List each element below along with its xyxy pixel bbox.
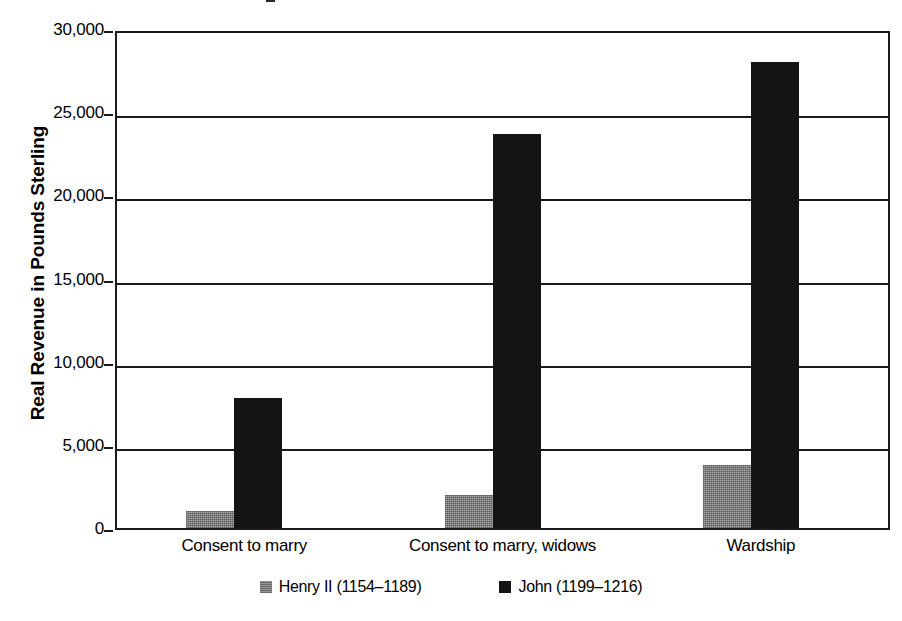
bar <box>445 495 493 528</box>
y-tick-label: 20,000 <box>53 186 104 206</box>
y-tick-label: 25,000 <box>53 103 104 123</box>
legend-item-label: Henry II (1154–1189) <box>279 578 422 596</box>
x-axis-category-labels: Consent to marryConsent to marry, widows… <box>115 536 890 566</box>
x-axis-label: Consent to marry, widows <box>353 536 653 556</box>
y-tick-label: 30,000 <box>53 20 104 40</box>
legend: Henry II (1154–1189)John (1199–1216) <box>0 578 902 596</box>
bar <box>493 134 541 528</box>
y-tick-label: 15,000 <box>53 270 104 290</box>
legend-item-label: John (1199–1216) <box>518 578 642 596</box>
bar <box>751 62 799 528</box>
y-tick-mark <box>104 364 113 366</box>
y-tick-label: 5,000 <box>62 436 104 456</box>
y-axis-tick-labels: 05,00010,00015,00020,00025,00030,000 <box>0 31 104 530</box>
x-axis-label: Consent to marry <box>94 536 394 556</box>
legend-item: Henry II (1154–1189) <box>260 578 422 596</box>
legend-swatch-icon <box>499 581 511 593</box>
y-tick-mark <box>104 530 113 532</box>
y-tick-mark <box>104 114 113 116</box>
y-tick-mark <box>104 197 113 199</box>
y-tick-mark <box>104 447 113 449</box>
legend-item: John (1199–1216) <box>499 578 642 596</box>
y-tick-mark <box>104 31 113 33</box>
y-axis-tick-marks <box>104 31 115 530</box>
cropped-title-fragment <box>266 0 275 2</box>
x-axis-label: Wardship <box>611 536 902 556</box>
bar-chart: Real Revenue in Pounds Sterling 05,00010… <box>0 0 902 621</box>
bar <box>234 398 282 528</box>
plot-area <box>115 31 890 530</box>
bar <box>703 465 751 528</box>
y-tick-mark <box>104 281 113 283</box>
y-tick-label: 10,000 <box>53 353 104 373</box>
legend-swatch-icon <box>260 581 272 593</box>
bar <box>186 511 234 528</box>
